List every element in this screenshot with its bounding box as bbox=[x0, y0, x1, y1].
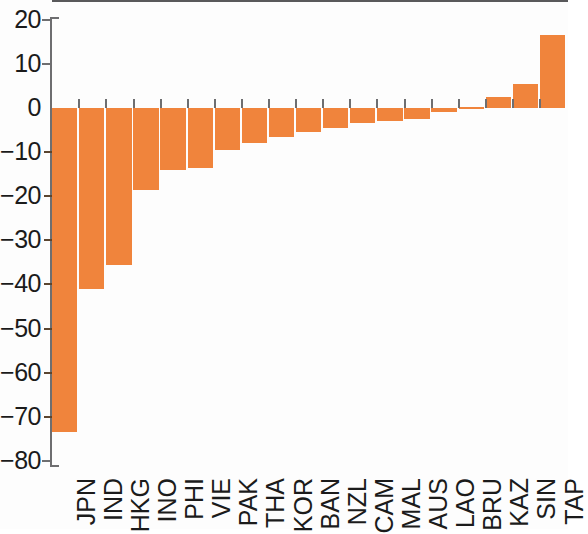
bar-kor bbox=[269, 108, 294, 137]
y-axis-tick bbox=[44, 239, 52, 241]
bar-tap bbox=[540, 35, 565, 108]
x-axis-tick bbox=[458, 99, 460, 108]
bar-jpn bbox=[52, 108, 77, 432]
y-axis-tick-label: 0 bbox=[0, 95, 41, 120]
y-axis-tick bbox=[44, 283, 52, 285]
x-axis-tick bbox=[241, 99, 243, 108]
bar-pak bbox=[215, 108, 240, 150]
y-axis-tick bbox=[44, 328, 52, 330]
bar-nzl bbox=[323, 108, 348, 128]
bar-lao bbox=[431, 108, 456, 112]
x-axis-tick bbox=[133, 99, 135, 108]
plot-area bbox=[52, 0, 568, 470]
x-axis-tick bbox=[322, 99, 324, 108]
y-axis-tick-label: 20 bbox=[0, 7, 41, 32]
x-axis-label-jpn: JPN bbox=[74, 478, 99, 525]
x-axis-tick bbox=[404, 99, 406, 108]
x-axis-tick bbox=[187, 99, 189, 108]
x-axis-label-kor: KOR bbox=[291, 478, 316, 532]
x-axis-label-bru: BRU bbox=[480, 478, 505, 531]
y-axis-tick bbox=[42, 19, 51, 21]
x-axis-label-nzl: NZL bbox=[345, 478, 370, 525]
x-axis-label-aus: AUS bbox=[426, 478, 451, 529]
zero-baseline bbox=[52, 0, 568, 2]
bar-ban bbox=[296, 108, 321, 132]
y-axis-tick bbox=[42, 460, 51, 462]
x-axis-label-ino: INO bbox=[155, 478, 180, 522]
y-axis-tick bbox=[44, 195, 52, 197]
bar-bru bbox=[459, 107, 484, 109]
bar-tha bbox=[242, 108, 267, 143]
y-axis-tick bbox=[44, 372, 52, 374]
y-axis-tick-label: −10 bbox=[0, 139, 41, 164]
x-axis-label-kaz: KAZ bbox=[507, 478, 532, 527]
x-axis-label-ban: BAN bbox=[318, 478, 343, 529]
bar-hkg bbox=[106, 108, 131, 265]
x-axis-label-lao: LAO bbox=[453, 478, 478, 528]
x-axis-label-pak: PAK bbox=[236, 478, 261, 526]
x-axis-label-sin: SIN bbox=[534, 478, 559, 520]
x-axis-tick bbox=[295, 99, 297, 108]
x-axis-tick bbox=[268, 99, 270, 108]
bar-phi bbox=[160, 108, 185, 170]
y-axis-tick-label: −80 bbox=[0, 448, 41, 473]
y-axis-tick-label: −50 bbox=[0, 316, 41, 341]
x-axis-tick bbox=[214, 99, 216, 108]
x-axis-tick bbox=[376, 99, 378, 108]
x-axis-tick bbox=[431, 99, 433, 108]
x-axis-tick bbox=[349, 99, 351, 108]
x-axis-label-mal: MAL bbox=[399, 478, 424, 529]
x-axis-tick bbox=[485, 99, 487, 108]
bar-mal bbox=[377, 108, 402, 121]
y-axis-tick bbox=[44, 416, 52, 418]
bar-sin bbox=[513, 84, 538, 108]
bar-vie bbox=[188, 108, 213, 168]
x-axis-tick bbox=[105, 99, 107, 108]
y-axis-tick bbox=[42, 63, 51, 65]
x-axis-tick bbox=[78, 99, 80, 108]
y-axis-tick-label: −30 bbox=[0, 227, 41, 252]
bar-kaz bbox=[486, 97, 511, 108]
y-axis-tick-label: 10 bbox=[0, 51, 41, 76]
y-axis-tick-label: −70 bbox=[0, 404, 41, 429]
x-axis-tick bbox=[160, 99, 162, 108]
bar-aus bbox=[404, 108, 429, 119]
y-axis-tick bbox=[44, 151, 52, 153]
x-axis-tick bbox=[539, 99, 541, 108]
bar-ind bbox=[79, 108, 104, 289]
bar-ino bbox=[133, 108, 158, 190]
x-axis-label-phi: PHI bbox=[182, 478, 207, 520]
x-axis-label-ind: IND bbox=[101, 478, 126, 521]
y-axis-tick-label: −20 bbox=[0, 183, 41, 208]
x-axis-label-cam: CAM bbox=[372, 478, 397, 534]
x-axis-label-vie: VIE bbox=[209, 478, 234, 518]
x-axis-label-tha: THA bbox=[263, 478, 288, 528]
y-axis-tick-label: −40 bbox=[0, 271, 41, 296]
x-axis-tick bbox=[512, 99, 514, 108]
x-axis-label-tap: TAP bbox=[562, 478, 587, 525]
y-axis-tick-label: −60 bbox=[0, 360, 41, 385]
x-axis-label-hkg: HKG bbox=[128, 478, 153, 532]
bar-cam bbox=[350, 108, 375, 123]
